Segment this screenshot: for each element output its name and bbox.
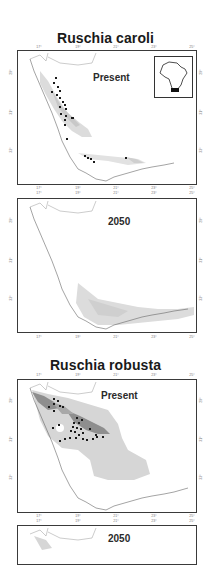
tick-label: 23° <box>151 45 156 49</box>
species-title-ruschia-robusta: Ruschia robusta <box>0 357 211 373</box>
map-panel-caroli-present: Present <box>17 50 197 185</box>
longitude-ticks-bottom-2: 17° 19° 21° 23° 25° <box>0 335 211 341</box>
map-panel-robusta-2050: 2050 <box>17 525 197 565</box>
map-canvas <box>18 526 197 565</box>
period-label: Present <box>93 72 130 83</box>
tick-label: 17° <box>36 45 41 49</box>
map-panel-robusta-present: Present <box>17 379 197 513</box>
africa-inset <box>154 56 193 98</box>
tick-label: 19° <box>75 45 80 49</box>
tick-label: 21° <box>113 45 118 49</box>
map-panel-caroli-2050: 2050 <box>17 198 197 333</box>
africa-map-icon <box>155 57 192 97</box>
species-title-ruschia-caroli: Ruschia caroli <box>0 30 211 46</box>
longitude-ticks-top-2: 17° 19° 21° 23° 25° <box>0 191 211 197</box>
period-label: Present <box>101 390 138 401</box>
period-label: 2050 <box>108 216 130 227</box>
period-label: 2050 <box>108 533 130 544</box>
tick-label: 25° <box>189 45 194 49</box>
study-area-marker <box>171 88 179 92</box>
